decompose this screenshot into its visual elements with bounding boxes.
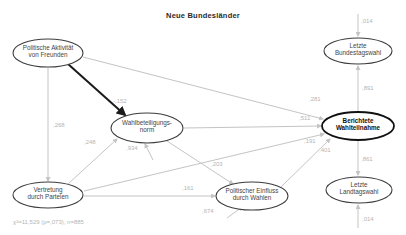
node-label-politische-aktivitaet-von-freunden: Politische Aktivitätvon Freunden: [23, 44, 74, 58]
edge-coefficient: ,934: [126, 145, 138, 151]
edge-coefficient: ,191: [304, 138, 316, 144]
edge-coefficient: ,281: [309, 96, 321, 102]
edge-coefficient: ,891: [362, 85, 374, 91]
edge-error-term-to-wahlbeteiligungsnorm: [145, 144, 153, 160]
fit-statistics: χ²=11,529 (p=,073), n=885: [13, 219, 84, 225]
edge-vertretung-durch-parteien-to-wahlbeteiligungsnorm: [68, 139, 117, 184]
diagram-svg: -,152,281,268,248,934,511,203,161,191,40…: [0, 0, 406, 235]
edge-coefficient: ,268: [53, 122, 65, 128]
edge-vertretung-durch-parteien-to-berichtete-wahlteilnahme: [84, 134, 324, 191]
edge-wahlbeteiligungsnorm-to-berichtete-wahlteilnahme: [184, 126, 321, 128]
edge-coefficient: ,248: [84, 139, 96, 145]
edge-coefficient: ,203: [211, 161, 223, 167]
edge-coefficient: ,401: [319, 147, 331, 153]
edge-coefficient: -,152: [113, 98, 127, 104]
edge-wahlbeteiligungsnorm-to-politischer-einfluss-durch-wahlen: [167, 141, 233, 184]
edge-coefficient: ,161: [182, 185, 194, 191]
diagram-title: Neue Bundesländer: [0, 11, 406, 20]
edge-politische-aktivitaet-von-freunden-to-wahlbeteiligungsnorm: [68, 64, 125, 115]
edge-coefficient: ,511: [299, 115, 311, 121]
node-label-politischer-einfluss-durch-wahlen: Politischer Einflussdurch Wahlen: [226, 187, 279, 201]
edge-coefficient: ,674: [202, 208, 214, 214]
diagram-canvas: -,152,281,268,248,934,511,203,161,191,40…: [0, 0, 406, 235]
path-diagram: -,152,281,268,248,934,511,203,161,191,40…: [0, 0, 406, 235]
edge-coefficient: ,861: [361, 156, 373, 162]
edge-coefficient: ,014: [362, 216, 374, 222]
